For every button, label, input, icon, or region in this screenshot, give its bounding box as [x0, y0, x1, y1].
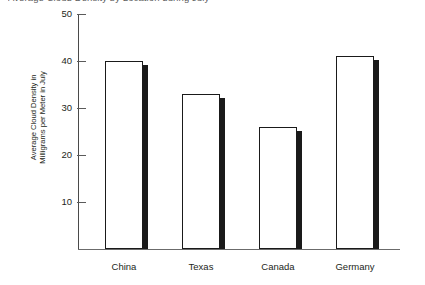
bar-canada[interactable]: [259, 127, 297, 249]
bar-china[interactable]: [105, 61, 143, 249]
bar-chart: Average Cloud Density by Location during…: [0, 0, 425, 285]
x-axis-line: [78, 249, 400, 250]
bar-series: ChinaTexasCanadaGermany: [78, 14, 400, 249]
y-axis-label: Average Cloud Density in Milligrams per …: [29, 32, 48, 202]
y-tick-label: 20: [61, 150, 72, 160]
y-tick-label: 10: [61, 197, 72, 207]
bar-shadow: [297, 131, 302, 249]
chart-title-clipped: Average Cloud Density by Location during…: [8, 0, 268, 3]
bar-group-china: China: [105, 14, 143, 249]
bar-shadow: [143, 65, 148, 249]
bar-group-germany: Germany: [336, 14, 374, 249]
plot-area: 1020304050 ChinaTexasCanadaGermany: [78, 14, 400, 250]
bar-group-texas: Texas: [182, 14, 220, 249]
bar-germany[interactable]: [336, 56, 374, 249]
x-axis-label-texas: Texas: [189, 261, 214, 272]
bar-group-canada: Canada: [259, 14, 297, 249]
y-tick-label: 50: [61, 9, 72, 19]
chart-title: Average Cloud Density by Location during…: [8, 0, 268, 3]
bar-shadow: [220, 98, 225, 249]
x-axis-label-china: China: [112, 261, 137, 272]
y-axis-label-line1: Average Cloud Density in: [29, 32, 38, 202]
bar-texas[interactable]: [182, 94, 220, 249]
x-axis-label-germany: Germany: [335, 261, 374, 272]
bar-shadow: [374, 60, 379, 249]
y-axis-label-line2: Milligrams per Meter in July: [38, 32, 47, 202]
x-axis-label-canada: Canada: [261, 261, 294, 272]
y-tick-label: 40: [61, 56, 72, 66]
y-tick-label: 30: [61, 103, 72, 113]
